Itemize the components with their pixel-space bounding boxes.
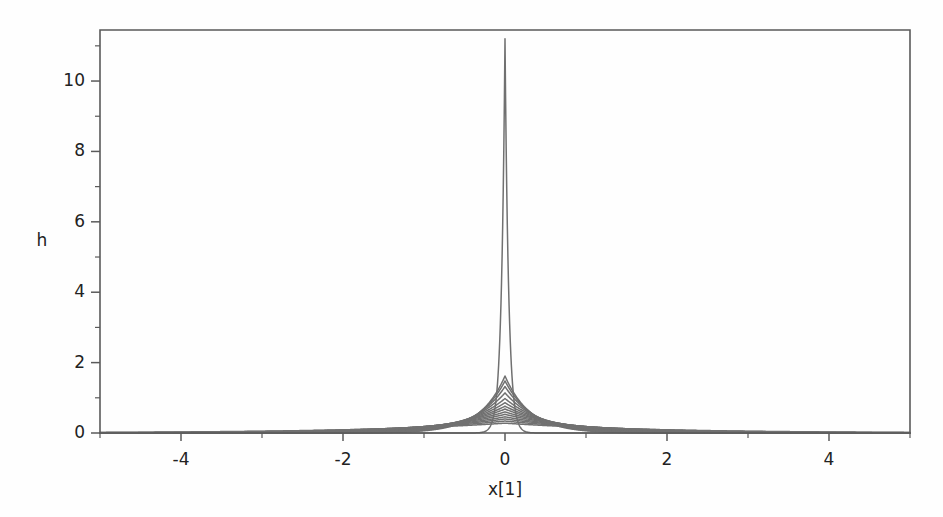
x-axis-title: x[1]: [488, 479, 522, 499]
density-curves-group: [100, 39, 910, 433]
y-tick-label: 10: [63, 70, 85, 90]
x-tick-label: -4: [173, 449, 190, 469]
plot-canvas: -4-2024 0246810 h x[1]: [0, 0, 943, 517]
y-axis-title: h: [37, 230, 48, 250]
x-tick-label: 4: [824, 449, 835, 469]
density-curve: [100, 403, 910, 433]
density-curve: [100, 423, 910, 432]
y-tick-label: 8: [74, 140, 85, 160]
y-tick-labels-group: 0246810: [63, 70, 85, 442]
density-curve: [100, 39, 910, 433]
density-curve: [100, 376, 910, 433]
x-tick-label: 2: [662, 449, 673, 469]
density-curve: [100, 399, 910, 433]
x-tick-label: 0: [500, 449, 511, 469]
y-tick-label: 2: [74, 352, 85, 372]
axis-ticks-group: [91, 46, 910, 441]
x-tick-label: -2: [335, 449, 352, 469]
density-plot-figure: -4-2024 0246810 h x[1]: [0, 0, 943, 517]
y-tick-label: 6: [74, 211, 85, 231]
y-tick-label: 4: [74, 281, 85, 301]
x-tick-labels-group: -4-2024: [173, 449, 835, 469]
y-tick-label: 0: [74, 422, 85, 442]
